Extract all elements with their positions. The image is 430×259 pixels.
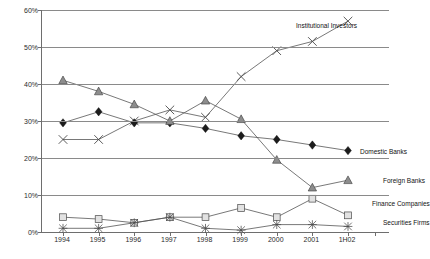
y-tick-label: 30% (0, 118, 38, 125)
data-point (273, 214, 280, 221)
data-point (344, 176, 352, 184)
data-point (273, 135, 280, 143)
series-label: Securities Firms (383, 219, 430, 226)
data-point (95, 108, 102, 116)
data-point (60, 119, 67, 127)
data-point (345, 212, 352, 219)
data-point (238, 205, 245, 212)
data-point (309, 141, 316, 149)
data-point (237, 72, 246, 81)
gridline (42, 10, 389, 11)
data-point (238, 132, 245, 140)
data-point (309, 195, 316, 202)
data-point (94, 87, 102, 95)
gridline (42, 158, 389, 159)
series-finance-companies (60, 195, 352, 226)
data-point (202, 214, 209, 221)
data-point (308, 37, 317, 46)
data-point (130, 218, 139, 227)
data-point (344, 222, 353, 231)
data-point (59, 76, 67, 84)
data-point (60, 214, 67, 221)
y-tick-label: 20% (0, 155, 38, 162)
y-tick-label: 60% (0, 7, 38, 14)
x-tick-label: 1H02 (325, 236, 369, 244)
gridline (42, 195, 389, 196)
data-point (166, 106, 175, 115)
y-tick-label: 0% (0, 229, 38, 236)
series-label: Foreign Banks (383, 177, 425, 184)
data-point (202, 124, 209, 132)
y-tick-label: 40% (0, 81, 38, 88)
y-axis-ticks: 0%10%20%30%40%50%60% (0, 0, 38, 259)
plot-area (41, 10, 389, 233)
gridline (42, 84, 389, 85)
data-point (95, 216, 102, 223)
series-label: Domestic Banks (360, 148, 407, 155)
data-point (308, 220, 317, 229)
series-foreign-banks (59, 76, 352, 191)
series-domestic-banks (60, 108, 352, 155)
series-label: Institutional Investors (296, 22, 357, 29)
data-point (345, 146, 352, 154)
data-point (130, 100, 138, 108)
y-tick-label: 10% (0, 192, 38, 199)
data-point (165, 213, 174, 222)
data-point (272, 220, 281, 229)
series-label: Finance Companies (372, 200, 430, 207)
data-point (201, 96, 209, 104)
y-tick-label: 50% (0, 44, 38, 51)
gridline (42, 121, 389, 122)
gridline (42, 47, 389, 48)
x-axis-end-tick (375, 232, 376, 236)
